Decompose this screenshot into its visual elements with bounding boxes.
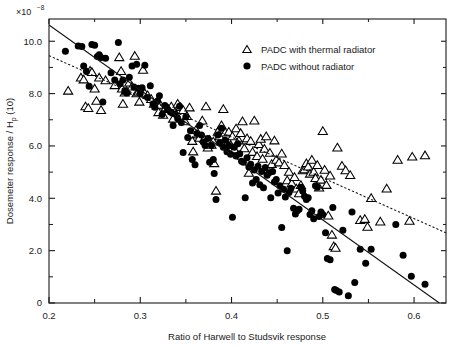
data-point-circle: [147, 82, 154, 89]
data-point-circle: [284, 247, 291, 254]
data-point-circle: [176, 103, 183, 110]
series-without-radiator: [62, 39, 429, 299]
data-series-layer: [62, 39, 430, 299]
data-point-circle: [115, 39, 122, 46]
y-axis-title-tail: (10): [4, 98, 15, 118]
y-axis-exponent: ×10 −8: [16, 4, 45, 17]
data-point-circle: [345, 292, 352, 299]
data-point-triangle: [96, 106, 105, 114]
data-point-circle: [187, 127, 194, 134]
data-point-circle: [102, 55, 109, 62]
data-point-triangle: [189, 147, 198, 155]
data-point-triangle: [393, 156, 402, 164]
x-tick-label: 0.2: [42, 310, 55, 321]
y-exponent-power: −8: [37, 4, 45, 11]
data-point-circle: [269, 168, 276, 175]
data-point-circle: [159, 111, 166, 118]
data-point-circle: [108, 69, 115, 76]
y-tick-label: 10.0: [24, 36, 43, 47]
data-point-circle: [296, 206, 303, 213]
data-point-circle: [86, 83, 93, 90]
legend: PADC with thermal radiator PADC without …: [243, 44, 376, 72]
data-point-triangle: [382, 184, 391, 192]
chart-canvas: ×10 −8 0.20.30.40.50.6 02.04.06.08.010.0…: [0, 0, 456, 347]
y-tick-label: 0: [37, 297, 42, 308]
data-point-circle: [422, 281, 429, 288]
x-tick-label: 0.6: [407, 310, 420, 321]
data-point-triangle: [201, 102, 210, 110]
data-point-circle: [273, 176, 280, 183]
x-tick-label: 0.4: [225, 310, 238, 321]
data-point-triangle: [116, 67, 125, 75]
data-point-circle: [210, 156, 217, 163]
data-point-circle: [99, 98, 106, 105]
data-point-circle: [91, 42, 98, 49]
data-point-triangle: [118, 100, 127, 108]
data-point-circle: [368, 246, 375, 253]
legend-label-with-radiator: PADC with thermal radiator: [261, 44, 375, 55]
data-point-circle: [178, 119, 185, 126]
data-point-circle: [287, 185, 294, 192]
data-point-circle: [182, 113, 189, 120]
data-point-triangle: [250, 116, 259, 124]
data-point-triangle: [277, 149, 286, 157]
data-point-circle: [305, 194, 312, 201]
data-point-circle: [218, 125, 225, 132]
x-axis-ticks: [49, 19, 414, 303]
y-tick-label: 2.0: [29, 245, 42, 256]
data-point-circle: [133, 61, 140, 68]
data-point-circle: [348, 208, 355, 215]
data-point-circle: [244, 154, 251, 161]
y-tick-label: 8.0: [29, 88, 42, 99]
data-point-circle: [314, 184, 321, 191]
data-point-circle: [202, 142, 209, 149]
data-point-circle: [319, 211, 326, 218]
data-point-circle: [400, 252, 407, 259]
y-tick-label: 4.0: [29, 193, 42, 204]
data-point-circle: [139, 84, 146, 91]
legend-open-triangle-icon: [243, 46, 251, 53]
y-axis-title-main: Dosemeter response / H: [4, 121, 15, 224]
data-point-circle: [170, 122, 177, 129]
data-point-circle: [141, 62, 148, 69]
scatter-chart-figure: ×10 −8 0.20.30.40.50.6 02.04.06.08.010.0…: [0, 0, 456, 347]
data-point-circle: [236, 150, 243, 157]
data-point-triangle: [185, 103, 194, 111]
data-point-triangle: [307, 156, 316, 164]
data-point-circle: [329, 204, 336, 211]
data-point-triangle: [115, 53, 124, 61]
data-point-circle: [213, 196, 220, 203]
data-point-circle: [408, 273, 415, 280]
data-point-circle: [278, 224, 285, 231]
data-point-triangle: [130, 52, 139, 60]
data-point-triangle: [219, 105, 228, 113]
data-point-circle: [351, 279, 358, 286]
legend-label-without-radiator: PADC without radiator: [261, 61, 354, 72]
data-point-circle: [151, 104, 158, 111]
data-point-circle: [62, 48, 69, 55]
data-point-triangle: [333, 143, 342, 151]
y-axis-title-group: Dosemeter response / Hp (10): [4, 98, 18, 224]
data-point-circle: [234, 140, 241, 147]
data-point-circle: [156, 92, 163, 99]
x-tick-label: 0.5: [316, 310, 329, 321]
data-point-triangle: [376, 217, 385, 225]
data-point-triangle: [318, 127, 327, 135]
data-point-circle: [214, 131, 221, 138]
y-tick-label: 6.0: [29, 140, 42, 151]
y-axis-tick-labels: 02.04.06.08.010.0: [24, 36, 43, 309]
data-point-triangle: [405, 217, 414, 225]
data-point-circle: [211, 170, 218, 177]
x-axis-title: Ratio of Harwell to Studsvik response: [168, 331, 326, 342]
data-point-circle: [260, 184, 267, 191]
data-point-circle: [180, 149, 187, 156]
x-axis-tick-labels: 0.20.30.40.50.6: [42, 310, 420, 321]
data-point-triangle: [262, 132, 271, 140]
data-point-circle: [267, 194, 274, 201]
y-exponent-mantissa: ×10: [16, 7, 31, 17]
data-point-triangle: [408, 152, 417, 160]
data-point-triangle: [64, 86, 73, 94]
data-point-circle: [242, 194, 249, 201]
data-point-triangle: [238, 117, 247, 125]
data-point-triangle: [211, 186, 220, 194]
